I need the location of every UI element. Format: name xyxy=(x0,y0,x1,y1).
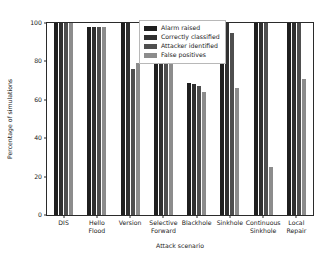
y-tick-label: 60 xyxy=(34,97,42,103)
bar xyxy=(225,23,229,215)
x-tick-label: Selective Forward xyxy=(149,219,177,235)
bar xyxy=(259,23,263,215)
bar xyxy=(235,88,239,215)
bar xyxy=(302,79,306,215)
bar xyxy=(297,23,301,215)
legend-swatch-icon xyxy=(144,44,157,49)
x-tick-mark xyxy=(130,215,131,218)
bar xyxy=(230,33,234,215)
x-tick-label: Blackhole xyxy=(182,219,212,227)
bar xyxy=(136,63,140,215)
y-tick-label: 0 xyxy=(38,212,42,218)
bar xyxy=(54,23,58,215)
bar xyxy=(192,84,196,215)
legend-label: Alarm raised xyxy=(161,25,200,31)
x-tick-label: Version xyxy=(119,219,142,227)
legend-label: False positives xyxy=(161,52,206,58)
y-axis-label: Percentage of simulations xyxy=(6,79,13,159)
legend-swatch-icon xyxy=(144,26,157,31)
bar xyxy=(287,23,291,215)
x-tick-label: DIS xyxy=(58,219,69,227)
bar xyxy=(92,27,96,215)
legend-item[interactable]: Correctly classified xyxy=(144,33,220,42)
bar xyxy=(97,27,101,215)
bar xyxy=(64,23,68,215)
x-tick-label: Sinkhole xyxy=(217,219,243,227)
x-tick-mark xyxy=(163,215,164,218)
bar xyxy=(254,23,258,215)
bar xyxy=(69,23,73,215)
legend-item[interactable]: Alarm raised xyxy=(144,24,220,33)
bar-group: Continuous Sinkhole xyxy=(247,23,280,215)
chart-figure: Percentage of simulations Attack scenari… xyxy=(0,0,331,257)
bar-group: DIS xyxy=(47,23,80,215)
legend-item[interactable]: False positives xyxy=(144,51,220,60)
y-tick-label: 40 xyxy=(34,135,42,141)
y-tick-label: 100 xyxy=(30,20,42,26)
x-tick-label: Hello Flood xyxy=(88,219,105,235)
bar xyxy=(121,23,125,215)
bar xyxy=(102,27,106,215)
x-tick-mark xyxy=(296,215,297,218)
legend-label: Correctly classified xyxy=(161,34,220,40)
bar-group: Local Repair xyxy=(280,23,313,215)
y-tick-label: 20 xyxy=(34,173,42,179)
bar xyxy=(197,86,201,215)
legend-item[interactable]: Attacker identified xyxy=(144,42,220,51)
bar-group: Hello Flood xyxy=(80,23,113,215)
x-axis-label: Attack scenario xyxy=(156,242,204,249)
bar xyxy=(87,27,91,215)
bar xyxy=(292,23,296,215)
bar xyxy=(59,23,63,215)
bar xyxy=(187,83,191,215)
bar xyxy=(269,167,273,215)
x-tick-mark xyxy=(63,215,64,218)
bar xyxy=(126,23,130,215)
x-tick-label: Local Repair xyxy=(286,219,306,235)
x-tick-mark xyxy=(196,215,197,218)
legend-swatch-icon xyxy=(144,53,157,58)
chart-legend: Alarm raisedCorrectly classifiedAttacker… xyxy=(139,20,226,64)
x-tick-mark xyxy=(263,215,264,218)
legend-swatch-icon xyxy=(144,35,157,40)
legend-label: Attacker identified xyxy=(161,43,218,49)
x-tick-mark xyxy=(96,215,97,218)
y-tick-label: 80 xyxy=(34,58,42,64)
bar xyxy=(264,23,268,215)
x-tick-mark xyxy=(229,215,230,218)
x-tick-label: Continuous Sinkhole xyxy=(246,219,281,235)
bar xyxy=(202,92,206,215)
bar xyxy=(131,69,135,215)
